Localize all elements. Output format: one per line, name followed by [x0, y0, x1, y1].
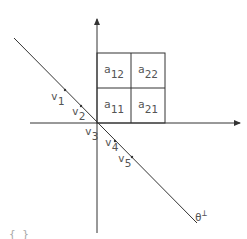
cell-a12: a12 [104, 64, 124, 80]
label-v2: v2 [72, 106, 85, 122]
cell-a22: a22 [138, 64, 158, 80]
cell-a21: a21 [138, 99, 158, 115]
label-v3: v3 [85, 126, 98, 142]
diagram-lines [0, 0, 247, 239]
label-v1: v1 [51, 91, 64, 107]
diagram-canvas: a12 a22 a11 a21 v1 v2 v3 v4 v5 θ⊥ { } [0, 0, 247, 239]
label-v5: v5 [118, 153, 131, 169]
bottom-fragment: { } [9, 229, 29, 239]
label-theta-perp: θ⊥ [195, 209, 207, 223]
cell-a11: a11 [104, 99, 124, 115]
label-v4: v4 [105, 137, 118, 153]
